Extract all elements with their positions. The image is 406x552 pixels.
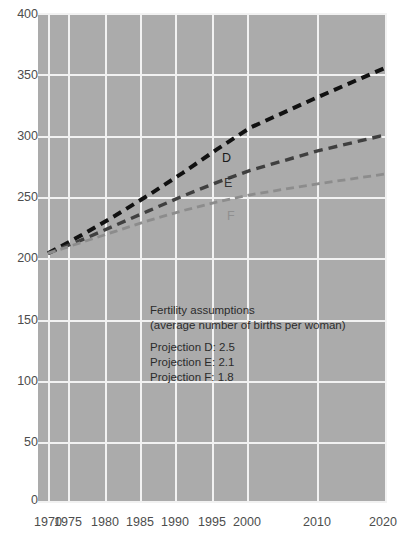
y-tick-350: 350	[0, 69, 38, 82]
annotation-subheading: (average number of births per woman)	[150, 318, 346, 333]
y-tick-250: 250	[0, 191, 38, 204]
annotation-projection-e: Projection E: 2.1	[150, 355, 346, 370]
x-tick-2000: 2000	[224, 516, 270, 529]
y-tick-300: 300	[0, 130, 38, 143]
y-tick-200: 200	[0, 252, 38, 265]
series-line-D	[48, 68, 385, 253]
fertility-assumptions-annotation: Fertility assumptions (average number of…	[150, 303, 346, 385]
x-tick-2010: 2010	[294, 516, 340, 529]
y-tick-50: 50	[0, 436, 38, 449]
annotation-heading: Fertility assumptions	[150, 303, 346, 318]
x-tick-2020: 2020	[360, 516, 406, 529]
y-tick-0: 0	[0, 494, 38, 507]
y-tick-150: 150	[0, 314, 38, 327]
series-label-E: E	[224, 177, 232, 190]
annotation-projection-f: Projection F: 1.8	[150, 370, 346, 385]
y-tick-100: 100	[0, 375, 38, 388]
y-tick-400: 400	[0, 8, 38, 21]
plot-area: D E F	[38, 13, 387, 503]
series-lines	[38, 13, 387, 503]
annotation-projection-d: Projection D: 2.5	[150, 340, 346, 355]
series-label-D: D	[222, 152, 231, 165]
series-line-F	[48, 174, 385, 253]
series-label-F: F	[227, 210, 235, 223]
annotation-spacer	[150, 333, 346, 340]
population-projection-chart: D E F 400 350 300 250 200 150 100 50 0 1…	[0, 0, 406, 552]
